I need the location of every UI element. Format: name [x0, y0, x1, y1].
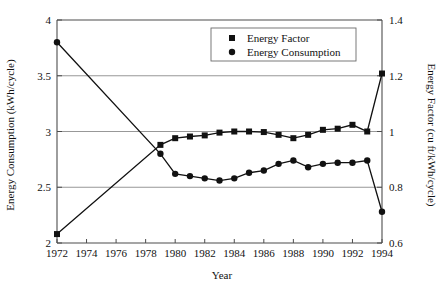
- y-axis-left-ticks: [57, 20, 62, 243]
- marker-circle: [334, 160, 340, 166]
- marker-circle: [349, 160, 355, 166]
- legend-label-1: Energy Consumption: [247, 46, 341, 58]
- marker-circle: [364, 157, 370, 163]
- energy-chart: 1972197419761978198019821984198619881990…: [0, 0, 440, 288]
- x-axis-tick-labels: 1972197419761978198019821984198619881990…: [46, 247, 394, 259]
- y2-tick-label: 1.4: [389, 14, 403, 26]
- chart-container: 1972197419761978198019821984198619881990…: [0, 0, 440, 288]
- series-line-energy-consumption: [57, 42, 382, 211]
- y-tick-label: 2.5: [37, 181, 51, 193]
- marker-circle: [246, 170, 252, 176]
- series-line-energy-factor: [57, 74, 382, 235]
- marker-circle: [305, 164, 311, 170]
- marker-square: [202, 132, 208, 138]
- x-tick-label: 1982: [194, 247, 216, 259]
- marker-circle: [379, 209, 385, 215]
- x-tick-label: 1984: [223, 247, 246, 259]
- marker-square: [335, 126, 341, 132]
- x-axis-title: Year: [212, 269, 233, 281]
- x-tick-label: 1990: [312, 247, 335, 259]
- marker-circle: [290, 157, 296, 163]
- marker-square: [364, 129, 370, 135]
- x-tick-label: 1974: [76, 247, 99, 259]
- marker-square: [379, 71, 385, 77]
- marker-square: [217, 130, 223, 136]
- marker-circle: [202, 175, 208, 181]
- marker-square: [320, 127, 326, 133]
- marker-square: [231, 129, 237, 135]
- y-axis-right-title: Energy Factor (cu ft/kWh/cycle): [425, 63, 438, 206]
- data-series: [54, 39, 385, 237]
- marker-square: [172, 135, 178, 141]
- marker-square: [157, 142, 163, 148]
- marker-square: [349, 122, 355, 128]
- y-tick-label: 3: [46, 126, 52, 138]
- marker-circle: [157, 151, 163, 157]
- x-axis-ticks: [57, 239, 382, 243]
- marker-circle: [275, 161, 281, 167]
- marker-square: [187, 134, 193, 140]
- x-tick-label: 1986: [253, 247, 276, 259]
- y2-tick-label: 1: [389, 126, 395, 138]
- marker-square: [305, 132, 311, 138]
- marker-circle: [231, 175, 237, 181]
- x-tick-label: 1978: [135, 247, 158, 259]
- marker-circle: [261, 167, 267, 173]
- legend-label-0: Energy Factor: [247, 32, 310, 44]
- marker-square: [290, 135, 296, 141]
- marker-circle: [216, 177, 222, 183]
- x-tick-label: 1976: [105, 247, 128, 259]
- y-axis-left-tick-labels: 22.533.54: [37, 14, 51, 249]
- marker-square: [246, 129, 252, 135]
- y-tick-label: 2: [46, 237, 52, 249]
- legend-marker-circle: [229, 49, 235, 55]
- marker-circle: [172, 171, 178, 177]
- x-tick-label: 1992: [341, 247, 363, 259]
- y-tick-label: 4: [46, 14, 52, 26]
- marker-square: [276, 132, 282, 138]
- y2-tick-label: 1.2: [389, 70, 403, 82]
- marker-circle: [54, 39, 60, 45]
- x-tick-label: 1980: [164, 247, 187, 259]
- chart-legend: Energy FactorEnergy Consumption: [211, 28, 356, 61]
- y-tick-label: 3.5: [37, 70, 51, 82]
- y-axis-left-title: Energy Consumption (kWh/cycle): [4, 59, 17, 211]
- marker-circle: [320, 161, 326, 167]
- legend-marker-square: [229, 35, 235, 41]
- x-tick-label: 1988: [282, 247, 305, 259]
- marker-square: [54, 231, 60, 237]
- y2-tick-label: 0.8: [389, 181, 403, 193]
- y2-tick-label: 0.6: [389, 237, 403, 249]
- y-axis-right-tick-labels: 0.60.811.21.4: [389, 14, 403, 249]
- marker-square: [261, 129, 267, 135]
- marker-circle: [187, 173, 193, 179]
